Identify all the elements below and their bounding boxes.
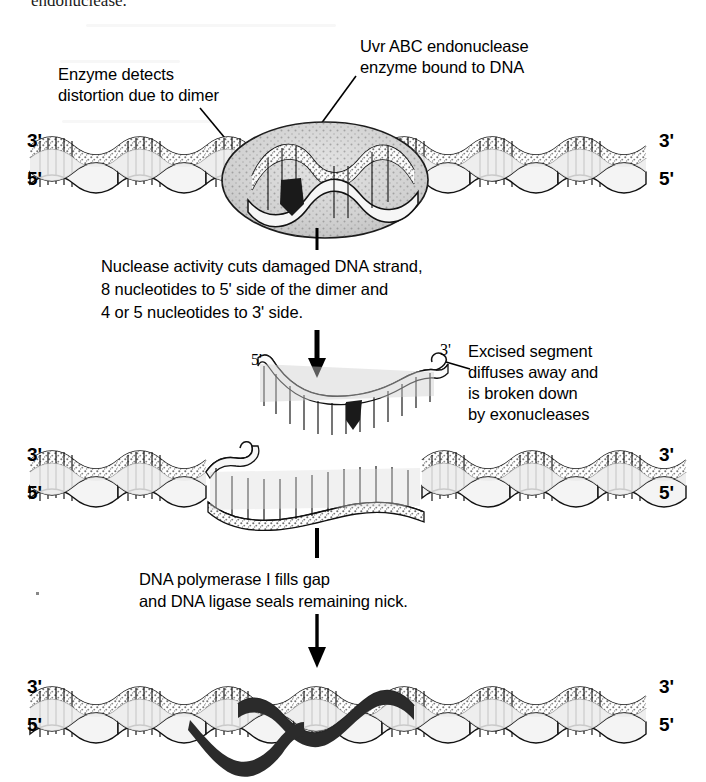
panel3-right-3prime: 3' [659, 444, 674, 466]
polymerase-line2: and DNA ligase seals remaining nick. [139, 591, 408, 612]
panel4-left-3prime: 3' [27, 676, 42, 698]
panel-1-enzyme-bound [0, 118, 706, 238]
flow-arrow-3 [300, 614, 340, 670]
panel1-right-5prime: 5' [659, 168, 674, 190]
panel1-right-3prime: 3' [659, 130, 674, 152]
panel1-left-5prime: 5' [27, 168, 42, 190]
panel3-left-5prime: 5' [27, 482, 42, 504]
enzyme-to-text-tick [300, 228, 340, 258]
excised-segment-line2: diffuses away and [468, 362, 598, 383]
flow-stem-2 [300, 528, 340, 562]
nuclease-activity-line1: Nuclease activity cuts damaged DNA stran… [101, 256, 422, 277]
panel4-right-5prime: 5' [659, 714, 674, 736]
panel4-left-5prime: 5' [27, 714, 42, 736]
panel4-right-3prime: 3' [659, 676, 674, 698]
polymerase-line1: DNA polymerase I fills gap [139, 569, 330, 590]
panel3-left-3prime: 3' [27, 444, 42, 466]
panel3-right-5prime: 5' [659, 482, 674, 504]
single-strand-gap [208, 466, 424, 530]
excised-segment-line3: is broken down [468, 383, 578, 404]
ink-speck [36, 592, 39, 595]
figure-canvas: endonuclease. Uvr ABC endonuclease enzym… [0, 0, 706, 782]
panel1-left-3prime: 3' [27, 130, 42, 152]
excised-segment-line1: Excised segment [468, 341, 592, 362]
excised-segment-line4: by exonucleases [468, 404, 589, 425]
panel-3-gapped-duplex [0, 432, 706, 542]
nuclease-activity-line2: 8 nucleotides to 5' side of the dimer an… [101, 279, 388, 300]
excised-leader-line [430, 355, 478, 377]
panel2-left-5prime: 5' [251, 351, 262, 369]
nuclease-activity-line3: 4 or 5 nucleotides to 3' side. [101, 302, 303, 323]
panel-4-repaired-duplex [0, 664, 706, 782]
